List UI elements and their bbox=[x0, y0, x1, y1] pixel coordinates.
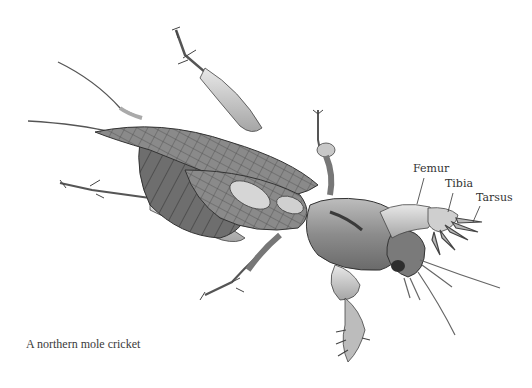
label-tarsus: Tarsus bbox=[476, 191, 513, 204]
hind-leg-upper bbox=[172, 27, 262, 132]
tibia-segment bbox=[428, 208, 458, 232]
label-femur: Femur bbox=[413, 162, 449, 175]
mole-cricket-illustration bbox=[0, 0, 532, 388]
middle-leg-lower bbox=[200, 235, 280, 300]
label-tibia: Tibia bbox=[445, 177, 473, 190]
middle-leg-upper bbox=[313, 110, 335, 195]
fore-leg-lower bbox=[331, 265, 370, 362]
mole-cricket-figure: Femur Tibia Tarsus A northern mole crick… bbox=[0, 0, 532, 388]
figure-caption: A northern mole cricket bbox=[26, 337, 140, 352]
